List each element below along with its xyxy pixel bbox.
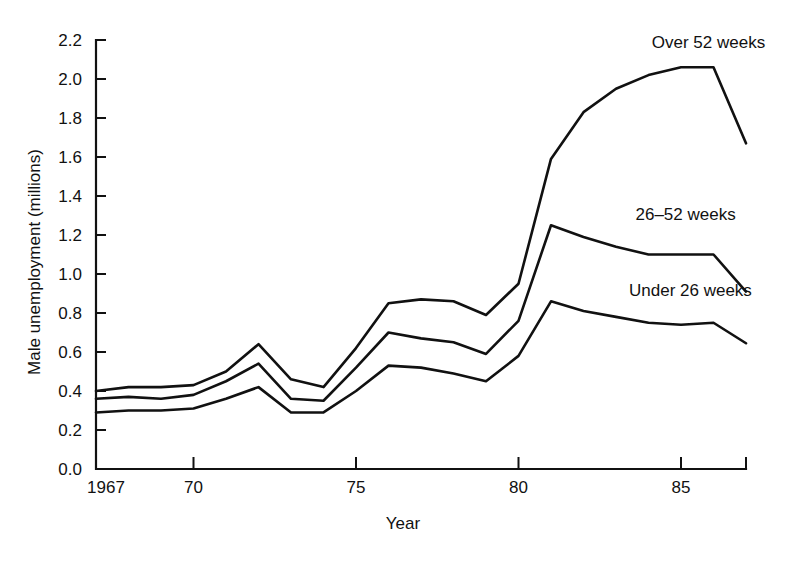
series-lines xyxy=(96,67,746,412)
y-tick-label: 0.8 xyxy=(58,304,82,323)
x-axis-title: Year xyxy=(386,514,421,533)
x-tick-label: 85 xyxy=(672,478,691,497)
y-tick-label: 0.2 xyxy=(58,421,82,440)
y-tick-label: 1.8 xyxy=(58,109,82,128)
series-label: 26–52 weeks xyxy=(636,205,736,224)
x-tick-label: 70 xyxy=(184,478,203,497)
y-tick-label: 1.6 xyxy=(58,148,82,167)
series-line xyxy=(96,67,746,391)
y-tick-label: 1.4 xyxy=(58,187,82,206)
y-axis-title: Male unemployment (millions) xyxy=(25,149,44,375)
y-tick-label: 2.2 xyxy=(58,31,82,50)
chart-figure: 0.00.20.40.60.81.01.21.41.61.82.02.2 196… xyxy=(0,0,793,569)
series-line xyxy=(96,225,746,401)
x-axis-ticks: 196770758085 xyxy=(87,457,746,497)
y-tick-label: 2.0 xyxy=(58,70,82,89)
y-tick-label: 0.4 xyxy=(58,382,82,401)
series-labels: Over 52 weeks26–52 weeksUnder 26 weeks xyxy=(629,33,765,301)
x-tick-label: 75 xyxy=(347,478,366,497)
x-tick-label: 1967 xyxy=(87,478,125,497)
y-tick-label: 0.0 xyxy=(58,460,82,479)
y-tick-label: 1.0 xyxy=(58,265,82,284)
y-tick-label: 0.6 xyxy=(58,343,82,362)
line-chart: 0.00.20.40.60.81.01.21.41.61.82.02.2 196… xyxy=(0,0,793,569)
series-label: Under 26 weeks xyxy=(629,281,752,300)
y-tick-label: 1.2 xyxy=(58,226,82,245)
x-tick-label: 80 xyxy=(509,478,528,497)
series-label: Over 52 weeks xyxy=(652,33,765,52)
